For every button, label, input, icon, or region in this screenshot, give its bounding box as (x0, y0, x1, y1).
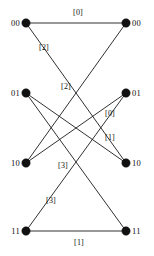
node-label-l11: 11 (11, 227, 20, 236)
graph-node (22, 19, 30, 27)
edge-label-e7: [1] (74, 239, 84, 247)
edge-label-e5: [0] (105, 110, 115, 118)
graph-node (122, 19, 130, 27)
trellis-diagram: 0001101100011011 [0][2][2][0][1][3][3][1… (0, 0, 154, 256)
node-label-l00: 00 (11, 19, 20, 28)
edge-label-e6: [3] (46, 197, 56, 205)
edge-label-e2: [1] (105, 134, 115, 142)
graph-node (122, 227, 130, 235)
edge-label-e4: [2] (61, 83, 71, 91)
node-label-r10: 10 (132, 159, 141, 168)
node-label-r01: 01 (132, 89, 141, 98)
edge-label-e1: [2] (39, 44, 49, 52)
graph-node (22, 227, 30, 235)
edges-group (26, 23, 126, 231)
graph-node (22, 159, 30, 167)
graph-node (122, 159, 130, 167)
edge-label-e3: [3] (58, 162, 68, 170)
graph-node (22, 89, 30, 97)
node-label-l01: 01 (11, 89, 20, 98)
trellis-canvas (0, 0, 154, 256)
graph-node (122, 89, 130, 97)
node-label-r11: 11 (132, 227, 141, 236)
node-label-l10: 10 (11, 159, 20, 168)
node-label-r00: 00 (132, 19, 141, 28)
edge-label-e0: [0] (73, 9, 83, 17)
